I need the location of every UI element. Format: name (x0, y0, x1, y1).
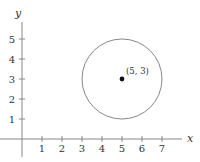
x-tick-label: 7 (159, 143, 165, 154)
y-tick-label: 3 (9, 74, 15, 85)
circle-plot: 1234567 12345 (5, 3) x y (0, 0, 200, 162)
y-tick-label: 4 (9, 54, 15, 65)
x-tick-label: 6 (139, 143, 145, 154)
x-tick-label: 4 (99, 143, 105, 154)
x-tick-label: 5 (119, 143, 125, 154)
x-tick-label: 3 (79, 143, 85, 154)
y-tick-label: 1 (9, 114, 15, 125)
y-axis-label: y (14, 7, 22, 20)
y-tick-label: 5 (9, 34, 15, 45)
x-axis-label: x (187, 132, 194, 145)
center-point: (5, 3) (120, 66, 149, 81)
x-tick-label: 2 (59, 143, 65, 154)
y-axis-ticks: 12345 (9, 34, 25, 125)
axes (0, 22, 182, 157)
x-tick-label: 1 (39, 143, 45, 154)
point-marker (120, 77, 125, 82)
y-tick-label: 2 (9, 94, 15, 105)
point-label: (5, 3) (126, 66, 149, 76)
